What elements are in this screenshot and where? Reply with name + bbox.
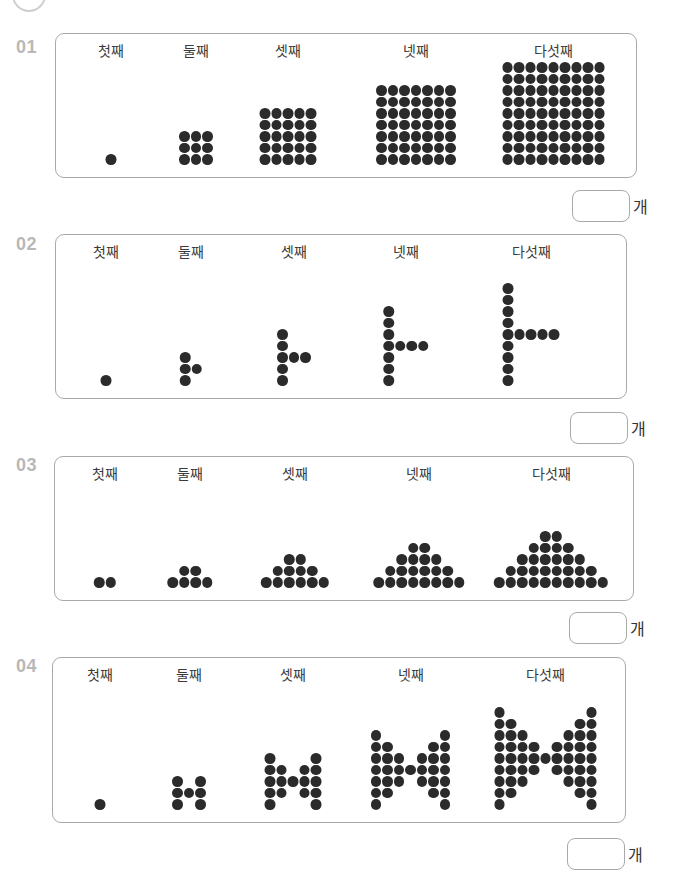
dot	[506, 719, 517, 730]
dot	[594, 97, 605, 108]
dot	[202, 131, 213, 142]
dot	[575, 719, 586, 730]
figure-label: 첫째	[76, 241, 136, 261]
dot	[586, 788, 597, 799]
dot	[195, 788, 206, 799]
dot	[503, 375, 514, 386]
dot	[514, 120, 525, 131]
dot	[548, 97, 559, 108]
dot	[411, 120, 422, 131]
dot	[571, 85, 582, 96]
dot	[411, 108, 422, 119]
dot	[517, 566, 528, 577]
dot	[528, 554, 539, 565]
dot	[422, 120, 433, 131]
answer-input-box[interactable]	[570, 412, 628, 444]
dot	[408, 543, 419, 554]
dot	[594, 74, 605, 85]
dot	[574, 554, 585, 565]
dot	[583, 131, 594, 142]
dot	[537, 74, 548, 85]
dot	[434, 97, 445, 108]
dot	[294, 131, 305, 142]
dot	[537, 131, 548, 142]
dot	[575, 776, 586, 787]
dot	[376, 120, 387, 131]
dot	[506, 742, 517, 753]
pattern-box: 첫째 둘째 셋째 넷째 다섯째	[52, 657, 626, 823]
dot	[295, 554, 306, 565]
dot	[417, 776, 428, 787]
dot	[517, 730, 528, 741]
problem-number: 02	[16, 234, 37, 255]
dot	[284, 554, 295, 565]
dot	[514, 108, 525, 119]
dot	[428, 765, 439, 776]
dot-pattern	[277, 329, 311, 386]
dot	[191, 154, 202, 165]
dot	[528, 566, 539, 577]
figure-label: 다섯째	[487, 463, 615, 483]
dot	[195, 799, 206, 810]
dot	[376, 131, 387, 142]
pattern-box: 첫째 둘째 셋째 넷째 다섯째	[54, 456, 634, 601]
dot	[388, 85, 399, 96]
figure-5: 다섯째	[496, 34, 611, 177]
dot	[376, 85, 387, 96]
dot	[551, 566, 562, 577]
dot	[525, 143, 536, 154]
figure-1: 첫째	[81, 34, 141, 177]
answer-input-box[interactable]	[567, 838, 625, 870]
figure-2: 둘째	[166, 34, 226, 177]
dot	[419, 566, 430, 577]
figure-2: 둘째	[161, 235, 221, 398]
dot	[179, 154, 190, 165]
figure-4: 넷째	[363, 658, 458, 822]
dot	[563, 577, 574, 588]
answer-input-box[interactable]	[569, 612, 627, 644]
dot	[583, 74, 594, 85]
dot	[431, 577, 442, 588]
figure-2: 둘째	[159, 658, 219, 822]
dot	[583, 154, 594, 165]
dot	[514, 97, 525, 108]
dot	[445, 143, 456, 154]
figure-label: 넷째	[366, 40, 466, 60]
dot	[371, 742, 382, 753]
dot	[394, 776, 405, 787]
dot	[503, 283, 514, 294]
dot	[503, 295, 514, 306]
dot	[272, 566, 283, 577]
dot	[260, 120, 271, 131]
answer-input-box[interactable]	[572, 190, 630, 222]
dot	[311, 753, 322, 764]
dot	[503, 318, 514, 329]
dot	[552, 753, 563, 764]
dot	[503, 306, 514, 317]
dot	[583, 120, 594, 131]
dot	[574, 577, 585, 588]
dot	[376, 154, 387, 165]
dot	[506, 776, 517, 787]
dot	[272, 577, 283, 588]
dot	[417, 765, 428, 776]
dot	[560, 85, 571, 96]
dot	[514, 154, 525, 165]
dot	[383, 306, 394, 317]
dot	[396, 554, 407, 565]
dot	[525, 120, 536, 131]
figure-label: 첫째	[81, 40, 141, 60]
dot	[571, 131, 582, 142]
dot	[180, 375, 191, 386]
dot	[537, 143, 548, 154]
dot	[271, 120, 282, 131]
dot	[445, 85, 456, 96]
dot	[318, 577, 329, 588]
dot	[552, 765, 563, 776]
dot	[540, 554, 551, 565]
dot	[180, 352, 191, 363]
dot	[537, 62, 548, 73]
dot	[388, 143, 399, 154]
dot	[179, 577, 190, 588]
dot	[373, 577, 384, 588]
